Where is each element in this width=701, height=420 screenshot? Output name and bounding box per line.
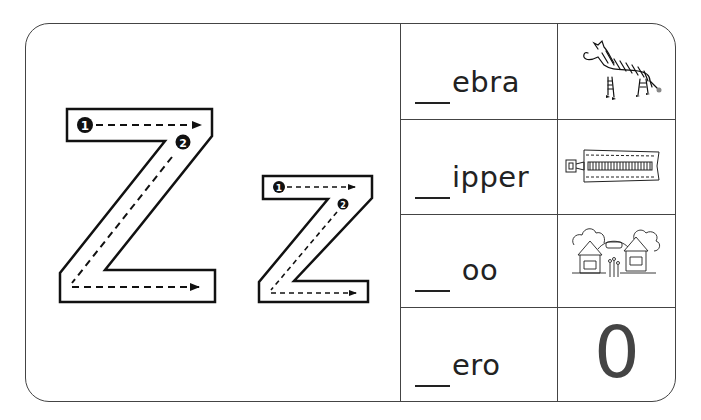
svg-text:2: 2 [179, 137, 187, 150]
svg-text:1: 1 [81, 119, 89, 133]
word-prompt: oo [415, 253, 498, 287]
word-suffix: ipper [452, 160, 529, 194]
letter-blank[interactable] [415, 384, 450, 387]
zoo-image [558, 215, 677, 308]
word-cell-zero: ero [400, 308, 557, 402]
stroke-number-1-icon: 1 [273, 181, 285, 193]
picture-cell-zipper [557, 120, 676, 215]
word-prompt: ebra [415, 65, 520, 99]
word-picture-table: ebra ipper [400, 23, 676, 402]
svg-text:1: 1 [276, 183, 282, 193]
stroke-number-2-icon: 2 [338, 199, 349, 210]
letter-blank[interactable] [415, 196, 450, 199]
zero-numeral: 0 [558, 310, 676, 394]
zebra-image [558, 23, 677, 120]
picture-cell-zero: 0 [557, 308, 676, 402]
word-cell-zoo: oo [400, 215, 557, 308]
picture-cell-zoo [557, 215, 676, 308]
letter-blank[interactable] [415, 101, 450, 104]
stroke-number-2-icon: 2 [176, 135, 191, 150]
letter-blank[interactable] [415, 289, 450, 292]
word-prompt: ipper [415, 160, 529, 194]
lowercase-z-trace: 1 2 [259, 176, 372, 302]
word-prompt: ero [415, 348, 500, 382]
uppercase-z-trace: 1 2 [60, 109, 215, 302]
picture-cell-zebra [557, 23, 676, 120]
word-cell-zipper: ipper [400, 120, 557, 215]
word-suffix: oo [452, 253, 498, 287]
word-suffix: ero [452, 348, 500, 382]
word-suffix: ebra [452, 65, 520, 99]
word-cell-zebra: ebra [400, 23, 557, 120]
zipper-image [558, 120, 677, 215]
svg-text:2: 2 [340, 201, 346, 210]
stroke-number-1-icon: 1 [77, 117, 93, 133]
